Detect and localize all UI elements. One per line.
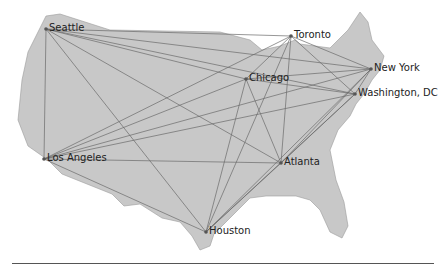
city-label-chicago: Chicago	[249, 73, 289, 83]
city-label-atlanta: Atlanta	[284, 157, 320, 167]
node-toronto	[289, 34, 293, 38]
node-losangeles	[42, 157, 46, 161]
city-label-houston: Houston	[209, 226, 251, 236]
baseline-rule	[12, 263, 434, 264]
node-atlanta	[279, 161, 283, 165]
node-chicago	[244, 77, 248, 81]
us-landmass	[18, 12, 384, 250]
node-newyork	[369, 67, 373, 71]
node-houston	[204, 230, 208, 234]
city-label-washington: Washington, DC	[358, 88, 438, 98]
city-label-newyork: New York	[374, 63, 420, 73]
node-seattle	[44, 27, 48, 31]
city-label-losangeles: Los Angeles	[47, 153, 107, 163]
city-label-toronto: Toronto	[294, 30, 331, 40]
node-washington	[353, 92, 357, 96]
city-label-seattle: Seattle	[49, 23, 84, 33]
